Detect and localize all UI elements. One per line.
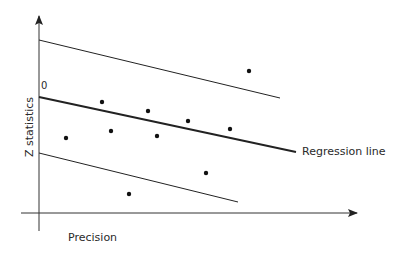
data-point [127, 192, 131, 196]
funnel-regression-plot [0, 0, 398, 253]
data-point [100, 100, 104, 104]
regression-line-label: Regression line [302, 146, 386, 157]
regression-line [39, 97, 296, 152]
data-point [247, 69, 251, 73]
data-point [228, 127, 232, 131]
upper-confidence-bound [39, 40, 280, 98]
data-point [204, 171, 208, 175]
y-axis-label: Z statistics [24, 97, 35, 157]
data-points [64, 69, 251, 196]
regression-lines [39, 40, 296, 202]
data-point [109, 129, 113, 133]
data-point [155, 134, 159, 138]
data-point [64, 136, 68, 140]
data-point [186, 119, 190, 123]
origin-label: 0 [41, 81, 47, 91]
lower-confidence-bound [39, 153, 238, 202]
x-axis-label: Precision [68, 232, 117, 243]
data-point [146, 109, 150, 113]
